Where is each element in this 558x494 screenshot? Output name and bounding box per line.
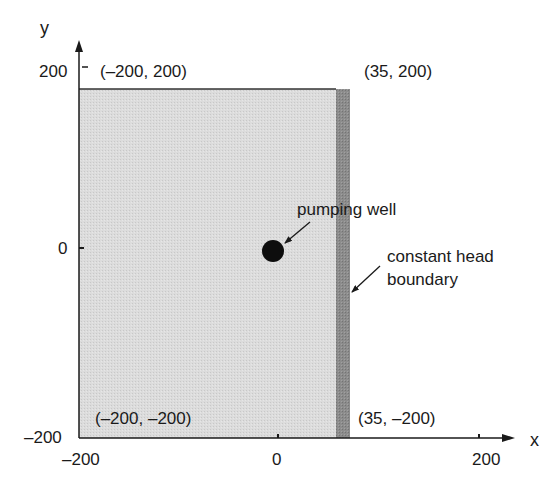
x-axis-arrow-icon [502, 434, 515, 442]
corner-label-bottom-right: (35, –200) [358, 409, 436, 429]
corner-label-top-left: (–200, 200) [100, 62, 187, 82]
y-tick-label-neg200: –200 [24, 428, 62, 448]
model-domain [79, 89, 350, 438]
x-tick-label-200: 200 [472, 450, 500, 470]
corner-label-top-right: (35, 200) [364, 62, 432, 82]
y-axis-label: y [40, 18, 49, 38]
y-tick-label-0: 0 [58, 239, 67, 259]
boundary-pointer-arrow [352, 266, 380, 292]
x-tick-label-0: 0 [272, 450, 281, 470]
x-tick-label-neg200: –200 [62, 450, 100, 470]
x-axis-label: x [530, 430, 539, 450]
corner-label-bottom-left: (–200, –200) [95, 409, 191, 429]
y-axis-arrow-icon [75, 40, 83, 52]
pumping-well-icon [262, 240, 284, 262]
boundary-label-line1: constant head [387, 247, 494, 267]
pumping-well-label: pumping well [297, 200, 396, 220]
boundary-label-line2: boundary [387, 270, 458, 290]
constant-head-boundary-strip [336, 89, 350, 438]
y-tick-label-200: 200 [39, 62, 67, 82]
